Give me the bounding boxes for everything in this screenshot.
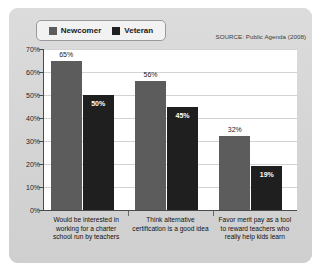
legend-item-newcomer[interactable]: Newcomer [49,27,101,35]
y-axis-tick-label: 10% [14,184,40,191]
y-axis-tick-mark [39,72,44,73]
source-note: SOURCE: Public Agenda (2008) [216,33,306,40]
y-axis-tick-mark [39,95,44,96]
plot-area: 65%50%56%45%32%19% [44,49,297,210]
bar-value-label: 45% [175,112,189,119]
x-axis-category-labels: Would be interested in working for a cha… [44,216,297,256]
bar-value-label: 50% [91,100,105,107]
square-swatch-icon [49,27,57,35]
bar-value-label: 56% [143,71,157,78]
y-axis-tick-label: 70% [14,46,40,53]
x-axis-category-label: Would be interested in working for a cha… [44,216,128,242]
y-axis-tick-label: 20% [14,161,40,168]
y-axis-tick-mark [39,118,44,119]
chart-legend: Newcomer Veteran [36,20,166,41]
x-axis-category-label: Favor merit pay as a tool to reward teac… [213,216,297,242]
x-axis-line [43,210,297,211]
y-axis-tick-mark [39,49,44,50]
y-axis-labels: 70%60%50%40%30%20%10%0% [10,49,40,210]
gridline [44,49,297,50]
y-axis-tick-label: 60% [14,69,40,76]
y-axis-tick-mark [39,164,44,165]
bar-newcomer-2[interactable] [219,136,250,210]
y-axis-tick-label: 50% [14,92,40,99]
x-axis-category-label: Think alternative certification is a goo… [128,216,212,233]
square-swatch-icon [112,27,120,35]
bar-value-label: 65% [59,51,73,58]
bar-value-label: 32% [228,126,242,133]
bar-veteran-0[interactable] [83,95,114,210]
y-axis-tick-mark [39,187,44,188]
y-axis-tick-mark [39,141,44,142]
y-axis-tick-mark [39,210,44,211]
legend-label-veteran: Veteran [124,27,153,35]
y-axis-tick-label: 30% [14,138,40,145]
x-axis-category-separator [213,211,214,216]
legend-item-veteran[interactable]: Veteran [112,27,153,35]
gridline [44,72,297,73]
legend-label-newcomer: Newcomer [61,27,101,35]
bar-newcomer-1[interactable] [135,81,166,210]
bar-newcomer-0[interactable] [51,61,82,211]
bar-value-label: 19% [260,171,274,178]
y-axis-tick-label: 0% [14,207,40,214]
y-axis-tick-label: 40% [14,115,40,122]
x-axis-category-separator [128,211,129,216]
bar-veteran-1[interactable] [167,107,198,211]
chart-figure: Newcomer Veteran SOURCE: Public Agenda (… [0,0,323,272]
